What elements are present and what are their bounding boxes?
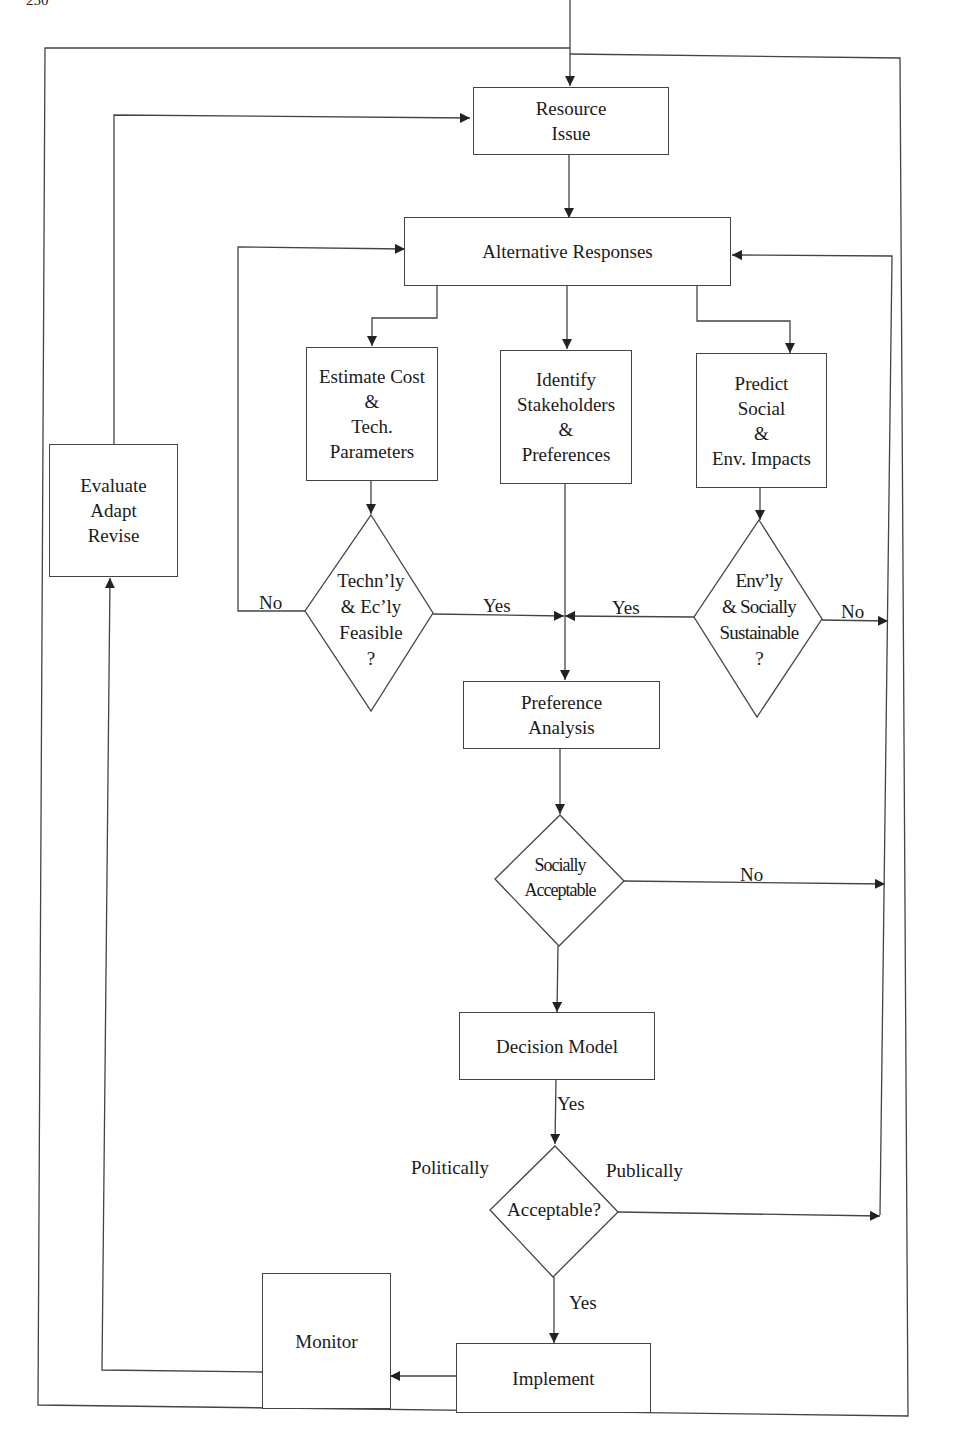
feasible-no-label: No [259,592,282,614]
decision-yes-label: Yes [557,1093,585,1115]
monitor-box: Monitor [262,1273,391,1409]
sustainable-yes-label: Yes [612,597,640,619]
socially-acceptable-decision-text: SociallyAcceptable [505,853,615,903]
sustainable-no-label: No [841,601,864,623]
decision-model-box: Decision Model [459,1012,655,1080]
alternative-responses-box: Alternative Responses [404,217,731,286]
evaluate-adapt-revise-box: EvaluateAdaptRevise [49,444,178,577]
politically-label: Politically [411,1157,489,1179]
implement-box: Implement [456,1343,651,1413]
identify-stakeholders-box: IdentifyStakeholders&Preferences [500,350,632,484]
acceptable-decision-text: Acceptable? [492,1197,616,1222]
predict-impacts-box: PredictSocial&Env. Impacts [696,353,827,488]
feasible-decision-text: Techn’ly& Ec’lyFeasible? [316,568,426,672]
socially-no-label: No [740,864,763,886]
feasible-yes-label: Yes [483,595,511,617]
resource-issue-box: ResourceIssue [473,87,669,155]
acceptable-yes-label: Yes [569,1292,597,1314]
publically-label: Publically [606,1160,683,1182]
sustainable-decision-text: Env’ly& SociallySustainable? [698,568,820,672]
preference-analysis-box: PreferenceAnalysis [463,681,660,749]
estimate-cost-box: Estimate Cost&Tech.Parameters [306,347,438,481]
